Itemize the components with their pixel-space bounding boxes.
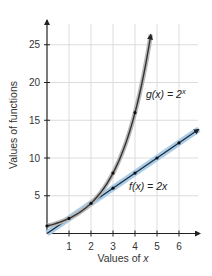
g-function-label: g(x) = 2x [146, 87, 186, 100]
x-tick-label: 6 [176, 241, 182, 252]
x-tick-label: 2 [88, 241, 94, 252]
y-tick-label: 25 [29, 39, 41, 50]
axes [47, 20, 200, 234]
x-axis-label: Values of x [97, 252, 149, 264]
grid-lines [47, 24, 198, 234]
axis-ticks: 123456510152025 [29, 39, 182, 251]
x-tick-label: 5 [154, 241, 160, 252]
f-function-label: f(x) = 2x [129, 180, 168, 192]
x-tick-label: 1 [66, 241, 72, 252]
y-axis-label: Values of functions [7, 81, 19, 169]
y-tick-label: 10 [29, 153, 41, 164]
x-tick-label: 3 [110, 241, 116, 252]
x-tick-label: 4 [132, 241, 138, 252]
y-tick-label: 15 [29, 115, 41, 126]
chart: 123456510152025 Values of functions Valu… [0, 0, 212, 276]
y-tick-label: 20 [29, 77, 41, 88]
y-tick-label: 5 [34, 190, 40, 201]
